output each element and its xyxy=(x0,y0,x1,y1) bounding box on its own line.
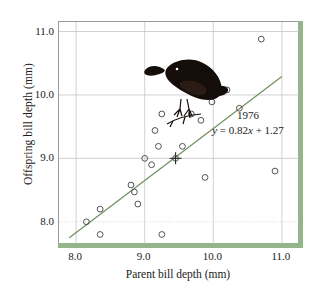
data-point xyxy=(209,99,215,105)
data-point xyxy=(272,168,278,174)
equation-slope: 0.82 xyxy=(229,124,248,136)
data-point xyxy=(202,175,208,181)
x-axis-tick-labels: 8.09.010.011.0 xyxy=(0,250,324,266)
data-point xyxy=(159,232,165,238)
x-tick-label-10.0: 10.0 xyxy=(192,250,232,262)
data-point xyxy=(132,189,138,195)
data-point xyxy=(128,182,134,188)
scatter-plot-figure: Offspring bill depth (mm) 8.09.010.011.0 xyxy=(0,0,324,291)
x-axis-label: Parent bill depth (mm) xyxy=(58,268,298,280)
chart-annotation: 1976 y = 0.82x + 1.27 xyxy=(196,108,300,138)
equation-plus: + xyxy=(253,124,265,136)
annotation-year: 1976 xyxy=(196,108,300,123)
data-point xyxy=(156,143,162,149)
x-tick-label-9.0: 9.0 xyxy=(124,250,164,262)
data-point xyxy=(258,36,264,42)
data-point xyxy=(188,111,194,117)
data-point xyxy=(135,201,141,207)
data-point xyxy=(152,128,158,134)
data-point xyxy=(97,206,103,212)
y-tick-label-10.0: 10.0 xyxy=(20,88,54,100)
y-tick-label-8.0: 8.0 xyxy=(20,215,54,227)
data-point xyxy=(159,111,165,117)
x-tick-label-8.0: 8.0 xyxy=(55,250,95,262)
y-tick-label-11.0: 11.0 xyxy=(20,25,54,37)
data-point xyxy=(97,232,103,238)
equation-intercept: 1.27 xyxy=(265,124,284,136)
annotation-equation: y = 0.82x + 1.27 xyxy=(196,123,300,138)
equation-equals: = xyxy=(217,124,229,136)
data-point xyxy=(224,87,230,93)
data-point xyxy=(149,162,155,168)
y-axis-tick-labels: 8.09.010.011.0 xyxy=(18,0,54,291)
x-tick-label-11.0: 11.0 xyxy=(261,250,301,262)
data-point xyxy=(180,143,186,149)
y-tick-label-9.0: 9.0 xyxy=(20,151,54,163)
